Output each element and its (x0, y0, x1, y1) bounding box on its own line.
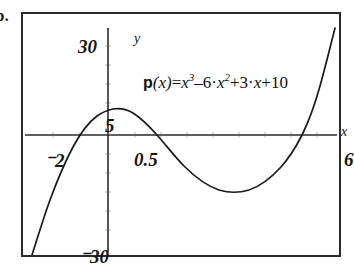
formula-annotation: p(x)=x3–6·x2+3·x+10 (143, 71, 288, 93)
y-axis-name-label: y (134, 31, 140, 47)
formula-term1-base: x (181, 73, 189, 92)
formula-term4-constant: +10 (261, 73, 288, 92)
formula-argument: (x) (153, 73, 172, 92)
curve-p-of-x (32, 28, 335, 255)
figure-frame: 30 ⁻30 5 y x ⁻2 0.5 6 p(x)=x3–6·x2+3·x+1… (21, 12, 341, 257)
x-axis-tick-label-0p5: 0.5 (134, 149, 158, 171)
y-axis-tick-label-neg30: ⁻30 (80, 245, 109, 268)
y-axis-tick-label-5: 5 (105, 115, 115, 137)
scan-top-text-fragment (0, 0, 348, 7)
formula-equals: = (172, 73, 182, 92)
formula-term3-coefficient: 3· (240, 73, 254, 92)
x-axis-tick-label-neg2: ⁻2 (45, 149, 65, 172)
formula-term2-coefficient: 6· (203, 73, 217, 92)
formula-term3-sign: + (230, 73, 240, 92)
x-axis-name-label: x (341, 124, 347, 140)
formula-function-name: p (143, 74, 153, 91)
formula-term2-sign: – (194, 73, 203, 92)
y-axis-tick-label-30: 30 (78, 36, 97, 58)
polynomial-plot (23, 14, 339, 255)
x-axis-tick-label-6: 6 (344, 149, 354, 171)
formula-term2-base: x (217, 73, 225, 92)
exercise-item-label: b. (0, 6, 9, 26)
